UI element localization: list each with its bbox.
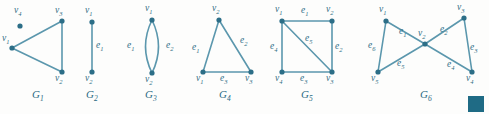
vertex-G1-v1: [9, 45, 14, 50]
vertex-label-G2-v2: v2: [85, 73, 92, 85]
edge-label-G6-e3: e3: [470, 42, 477, 54]
vertex-label-G3-v1: v1: [145, 3, 152, 15]
edge-G5-e5: [282, 21, 332, 72]
vertex-label-G3-v2: v2: [145, 74, 152, 86]
graph-caption-G4: G4: [219, 88, 231, 103]
graph-canvas: [0, 0, 489, 114]
edge-label-G3-e2: e2: [166, 40, 173, 52]
edge-label-G6-e5: e5: [397, 58, 404, 70]
edge-label-G3-e1: e1: [127, 40, 134, 52]
vertex-G3-v1: [149, 17, 154, 22]
vertex-G6-v1: [383, 18, 388, 23]
edge-G6-e6: [378, 21, 386, 72]
vertex-label-G2-v1: v1: [85, 5, 92, 17]
vertex-label-G4-v3: v3: [245, 73, 252, 85]
edge-G3-e2: [152, 20, 159, 73]
edge-label-G6-e1: e1: [399, 26, 406, 38]
vertex-label-G1-v1: v1: [2, 33, 9, 45]
edge-label-G6-e4: e4: [447, 59, 454, 71]
vertex-label-G6-v5: v5: [371, 73, 378, 85]
graph-caption-G5: G5: [301, 88, 313, 103]
edge-label-G5-e3: e3: [300, 73, 307, 85]
graph-caption-G3: G3: [145, 88, 157, 103]
edge-label-G5-e5: e5: [305, 33, 312, 45]
vertex-label-G4-v1: v1: [196, 73, 203, 85]
graph-caption-G2: G2: [86, 88, 98, 103]
vertex-label-G1-v4: v4: [14, 5, 21, 17]
vertex-label-G6-v2: v2: [418, 28, 425, 40]
graph-caption-G1: G1: [32, 88, 44, 103]
vertex-label-G5-v2: v2: [326, 4, 333, 16]
edge-label-G4-e1: e1: [192, 42, 199, 54]
vertex-label-G6-v4: v4: [466, 73, 473, 85]
graph-figure: v1v2v3v4G1e1v1v2G2e1e2v1v2G3e1e2e3v1v2v3…: [0, 0, 489, 114]
edge-label-G5-e2: e2: [335, 41, 342, 53]
edge-G3-e1: [146, 20, 153, 73]
vertex-G5-v1: [279, 18, 284, 23]
vertex-G6-v2: [422, 41, 427, 46]
color-swatch: [468, 96, 484, 112]
vertex-G6-v3: [461, 15, 466, 20]
edge-G4-e1: [203, 20, 219, 72]
vertex-G1-v4: [17, 23, 22, 28]
vertex-label-G1-v3: v3: [55, 5, 62, 17]
vertex-G5-v2: [329, 18, 334, 23]
vertex-label-G6-v1: v1: [379, 4, 386, 16]
vertex-G4-v2: [216, 17, 221, 22]
vertex-G2-v1: [89, 19, 94, 24]
edge-label-G4-e3: e3: [220, 73, 227, 85]
graph-caption-G6: G6: [420, 88, 432, 103]
vertex-G1-v3: [59, 18, 64, 23]
edge-G1-v1-v2: [12, 48, 62, 72]
vertex-label-G6-v3: v3: [457, 2, 464, 14]
vertex-label-G5-v3: v3: [326, 73, 333, 85]
vertex-label-G5-v1: v1: [275, 4, 282, 16]
vertex-label-G5-v4: v4: [275, 73, 282, 85]
vertex-label-G1-v2: v2: [55, 73, 62, 85]
edge-label-G5-e1: e1: [301, 5, 308, 17]
edge-label-G6-e6: e6: [368, 40, 375, 52]
vertex-label-G4-v2: v2: [212, 3, 219, 15]
edge-label-G6-e2: e2: [440, 24, 447, 36]
edge-label-G5-e4: e4: [270, 41, 277, 53]
edge-label-G2-e1: e1: [96, 40, 103, 52]
edge-label-G4-e2: e2: [240, 35, 247, 47]
